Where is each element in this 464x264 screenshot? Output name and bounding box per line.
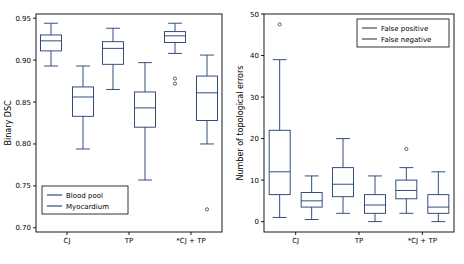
box-group	[165, 23, 186, 85]
box-group	[396, 147, 417, 213]
chart-panel-right: 01020304050Number of topological errorsC…	[232, 0, 464, 264]
box-rect	[103, 42, 124, 65]
y-tick-label: 0.90	[15, 57, 31, 65]
legend-label: False negative	[381, 36, 431, 44]
y-tick-label: 0.70	[15, 224, 31, 232]
box-rect	[333, 168, 354, 197]
box-rect	[269, 130, 290, 194]
y-tick-label: 0.80	[15, 140, 31, 148]
box-rect	[41, 35, 62, 51]
x-tick-label: TP	[354, 237, 364, 245]
y-tick-label: 0.85	[15, 99, 31, 107]
box-group	[197, 55, 218, 211]
y-axis-title: Binary DSC	[4, 100, 13, 145]
outlier-point	[205, 208, 208, 211]
chart-panel-left: 0.700.750.800.850.900.95Binary DSCCJTP*C…	[0, 0, 232, 264]
box-group	[365, 176, 386, 222]
legend-label: Blood pool	[66, 192, 103, 200]
box-rect	[396, 180, 417, 199]
outlier-point	[278, 23, 281, 26]
legend-label: False positive	[381, 25, 428, 33]
box-group	[269, 23, 290, 218]
box-rect	[365, 195, 386, 214]
box-rect	[428, 195, 449, 214]
x-tick-label: CJ	[292, 237, 299, 245]
box-group	[103, 28, 124, 89]
outlier-point	[173, 77, 176, 80]
box-rect	[165, 32, 186, 43]
box-rect	[73, 87, 94, 116]
box-group	[428, 172, 449, 222]
x-tick-label: TP	[124, 237, 134, 245]
box-group	[135, 63, 156, 180]
y-tick-label: 10	[250, 177, 259, 185]
box-rect	[197, 76, 218, 120]
y-axis-title: Number of topological errors	[236, 66, 245, 181]
box-group	[73, 66, 94, 149]
box-group	[333, 139, 354, 214]
y-tick-label: 30	[250, 94, 259, 102]
outlier-point	[405, 147, 408, 150]
box-rect	[135, 92, 156, 127]
y-tick-label: 0.75	[15, 182, 31, 190]
x-tick-label: *CJ + TP	[408, 237, 437, 245]
box-group	[301, 176, 322, 220]
y-tick-label: 20	[250, 135, 259, 143]
y-tick-label: 50	[250, 11, 259, 19]
figure: 0.700.750.800.850.900.95Binary DSCCJTP*C…	[0, 0, 464, 264]
boxplot-topological-errors: 01020304050Number of topological errorsC…	[232, 0, 464, 264]
y-tick-label: 40	[250, 52, 259, 60]
boxplot-binary-dsc: 0.700.750.800.850.900.95Binary DSCCJTP*C…	[0, 0, 232, 264]
y-tick-label: 0.95	[15, 15, 31, 23]
x-tick-label: CJ	[64, 237, 71, 245]
box-rect	[301, 193, 322, 208]
box-group	[41, 23, 62, 66]
x-tick-label: *CJ + TP	[176, 237, 205, 245]
outlier-point	[173, 82, 176, 85]
legend-label: Myocardium	[66, 203, 109, 211]
y-tick-label: 0	[255, 218, 259, 226]
